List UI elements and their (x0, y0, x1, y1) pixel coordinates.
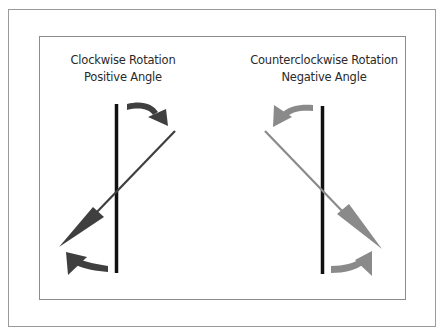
diagonal-arrow-left-shaft (95, 131, 175, 214)
rotation-diagram (0, 0, 445, 335)
diagonal-arrow-right-shaft (265, 131, 344, 213)
diagonal-arrowhead-right-icon (337, 204, 382, 249)
diagonal-arrowhead-left-icon (59, 207, 104, 247)
curved-arrow-top-left-body (127, 102, 158, 115)
clockwise-diagram (59, 100, 175, 275)
counterclockwise-diagram (265, 105, 382, 276)
